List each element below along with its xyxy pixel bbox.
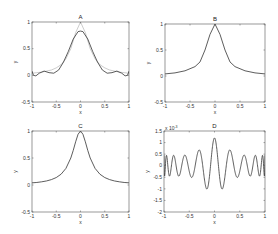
y-tick-label: 0.5 <box>23 155 30 161</box>
subplot-a: -1-0.500.51-0.500.51Axy <box>12 14 131 115</box>
x-tick-label: -0.5 <box>185 213 194 219</box>
axes-frame <box>32 131 129 212</box>
x-tick-label: 1 <box>264 103 267 109</box>
approximation-line <box>165 24 265 74</box>
x-tick-label: -0.5 <box>186 103 195 109</box>
x-tick-label: -0.5 <box>52 103 61 109</box>
x-tick-label: -0.5 <box>52 213 61 219</box>
y-tick-label: -1.5 <box>153 197 162 203</box>
x-axis-label: x <box>213 219 216 225</box>
x-tick-label: -1 <box>162 213 167 219</box>
y-tick-label: -0.5 <box>153 174 162 180</box>
x-tick-label: -1 <box>30 103 35 109</box>
x-axis-label: x <box>79 219 82 225</box>
y-tick-label: 0.5 <box>156 47 163 53</box>
approximation-line <box>32 31 129 76</box>
y-tick-label: -2 <box>158 209 163 215</box>
y-tick-label: 0 <box>159 162 162 168</box>
x-tick-label: -1 <box>163 103 168 109</box>
error-line <box>164 138 265 189</box>
axes-frame <box>32 22 129 102</box>
y-axis-label: y <box>144 170 150 173</box>
y-axis-multiplier: x 10-3 <box>165 125 178 131</box>
subplot-b: -1-0.500.51-0.500.51Bxy <box>145 16 267 115</box>
y-axis-label: y <box>12 60 18 63</box>
y-tick-label: 1 <box>160 21 163 27</box>
y-tick-label: 1 <box>159 139 162 145</box>
runge-function-line <box>32 131 129 183</box>
y-tick-label: 0 <box>160 73 163 79</box>
y-tick-label: 0 <box>27 182 30 188</box>
x-tick-label: 0.5 <box>101 213 108 219</box>
reference-line <box>32 22 129 73</box>
axes-frame <box>165 24 265 102</box>
y-tick-label: 1 <box>27 128 30 134</box>
y-tick-label: 1.5 <box>155 128 162 134</box>
x-tick-label: -1 <box>30 213 35 219</box>
y-tick-label: 1 <box>27 19 30 25</box>
subplot-title: C <box>78 123 83 129</box>
x-tick-label: 1 <box>264 213 267 219</box>
y-tick-label: -0.5 <box>21 209 30 215</box>
axes-frame <box>164 131 265 212</box>
subplot-title: D <box>212 123 217 129</box>
y-tick-label: -0.5 <box>21 99 30 105</box>
x-tick-label: 0.5 <box>236 213 243 219</box>
y-tick-label: -0.5 <box>154 99 163 105</box>
y-axis-label: y <box>145 61 151 64</box>
subplot-c: -1-0.500.51-0.500.51Cxy <box>12 123 131 225</box>
y-axis-label: y <box>12 170 18 173</box>
x-tick-label: 1 <box>128 103 131 109</box>
x-axis-label: x <box>79 109 82 115</box>
figure: -1-0.500.51-0.500.51Axy -1-0.500.51-0.50… <box>0 0 278 234</box>
y-tick-label: 0.5 <box>155 151 162 157</box>
subplot-d: -1-0.500.51-2-1.5-1-0.500.511.5Dxyx 10-3 <box>144 123 267 225</box>
x-tick-label: 0.5 <box>237 103 244 109</box>
x-tick-label: 0.5 <box>101 103 108 109</box>
y-tick-label: 0.5 <box>23 45 30 51</box>
subplot-title: B <box>213 16 217 22</box>
x-axis-label: x <box>214 109 217 115</box>
y-tick-label: 0 <box>27 72 30 78</box>
x-tick-label: 1 <box>128 213 131 219</box>
subplot-title: A <box>78 14 82 20</box>
y-tick-label: -1 <box>158 186 163 192</box>
